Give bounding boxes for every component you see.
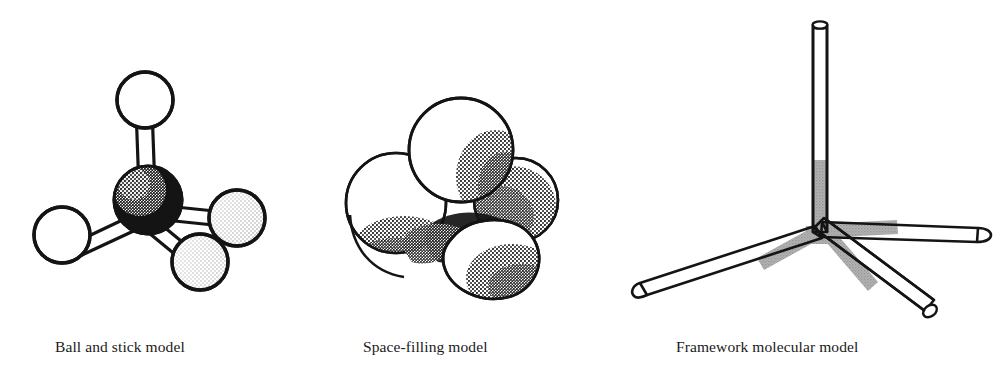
molecular-models-figure xyxy=(0,0,1004,377)
caption-framework-molecular: Framework molecular model xyxy=(676,338,858,356)
atom-hydrogen-bottom-right xyxy=(172,234,228,290)
atom-carbon-center xyxy=(114,164,182,234)
atom-hydrogen-top xyxy=(117,72,173,128)
caption-ball-and-stick: Ball and stick model xyxy=(55,338,185,356)
caption-space-filling: Space-filling model xyxy=(363,338,488,356)
atom-hydrogen-left xyxy=(34,207,90,263)
rod-up-open-end-icon xyxy=(813,21,828,28)
atom-hydrogen-right xyxy=(209,190,265,246)
